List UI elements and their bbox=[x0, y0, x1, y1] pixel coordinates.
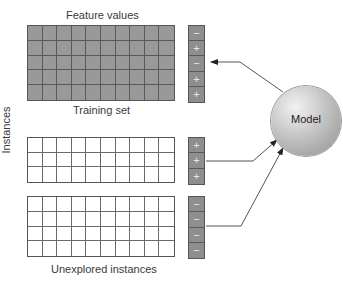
model-label: Model bbox=[271, 113, 341, 125]
arrow-model-to-training bbox=[211, 62, 283, 92]
arrow-bottom-to-model bbox=[206, 148, 283, 226]
arrow-middle-to-model bbox=[206, 140, 277, 161]
model-sphere: Model bbox=[271, 86, 341, 156]
